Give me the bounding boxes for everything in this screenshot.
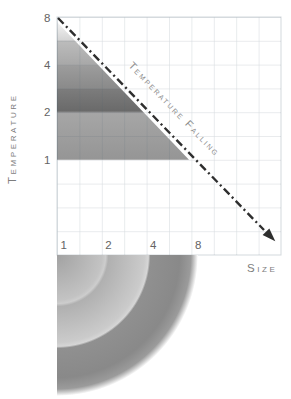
y-tick-4: 4 [44,59,51,71]
y-tick-8: 8 [44,12,51,24]
grid-cells [57,17,281,255]
x-tick-8: 8 [195,239,202,251]
x-tick-1: 1 [61,239,68,251]
x-tick-4: 4 [150,239,157,251]
y-axis-label: Temperature [6,93,18,184]
temperature-size-figure: Temperature Falling Temperature 8 4 2 1 … [0,0,291,399]
y-tick-2: 2 [44,106,51,118]
grid [57,17,281,255]
x-axis-label: Size [247,262,278,274]
y-tick-1: 1 [44,154,51,166]
x-tick-2: 2 [105,239,112,251]
